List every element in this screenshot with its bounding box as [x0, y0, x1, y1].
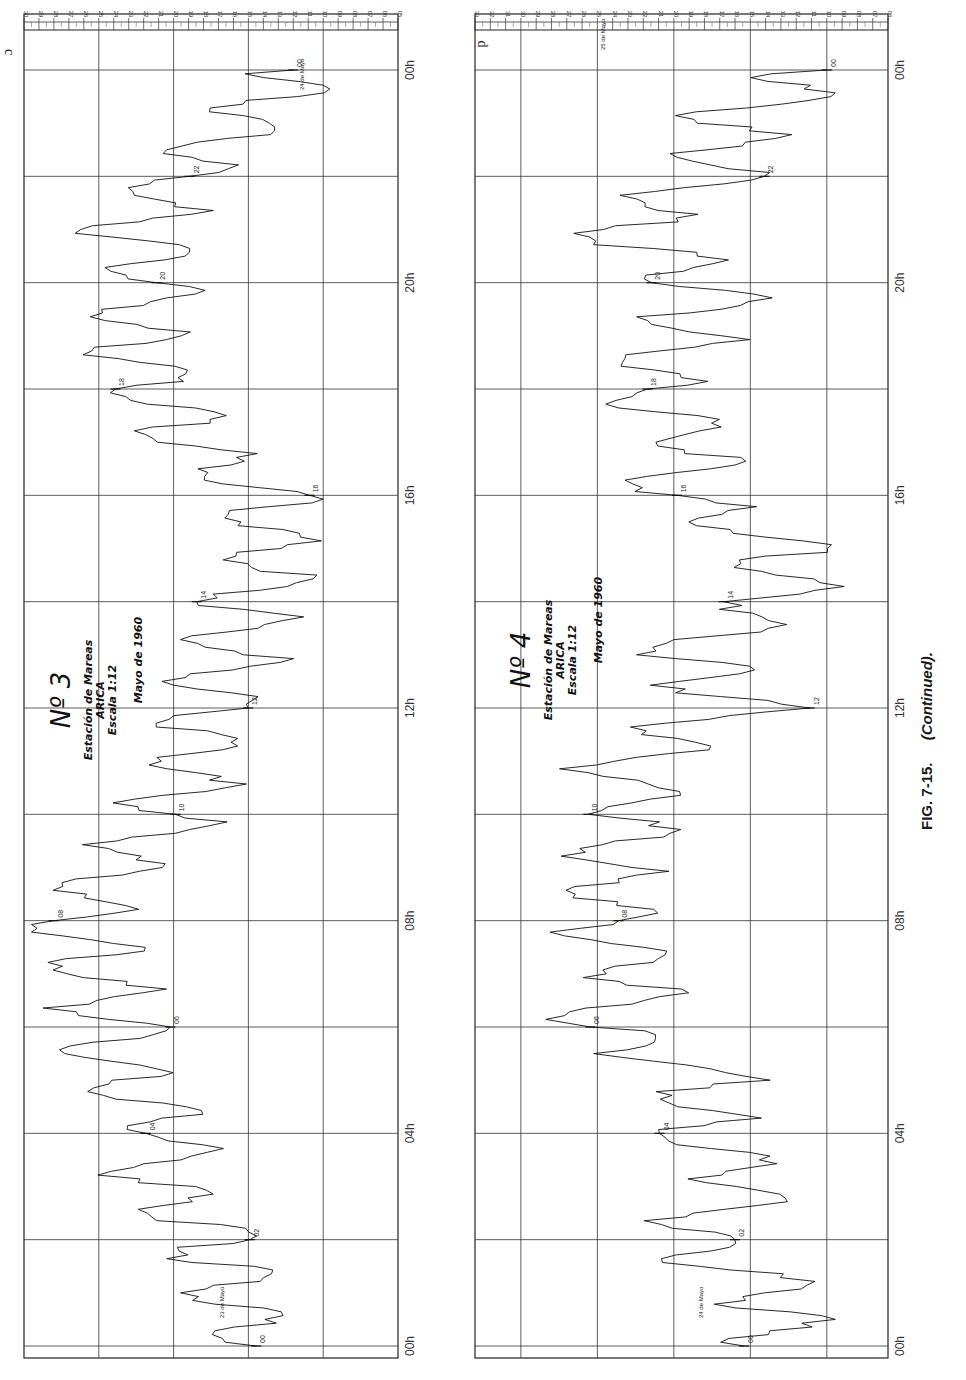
scale-tick-label: 16 [734, 11, 740, 18]
scale-tick-label: 22 [143, 11, 149, 18]
hour-axis-label: 04h [403, 1123, 417, 1143]
hour-axis-label: 00h [403, 1336, 417, 1356]
trace-hour-mark: 10 [178, 803, 185, 811]
marigram-charts: 3029282726252423222120191817161514131211… [0, 0, 966, 1380]
date-label: Mayo de 1960 [592, 576, 605, 663]
scale-tick-label: 24 [113, 11, 119, 18]
scale-tick-label: 14 [765, 11, 771, 18]
trace-hour-mark: 20 [159, 272, 166, 280]
trace-hour-mark: 06 [173, 1016, 180, 1024]
scale-tick-label: 26 [83, 11, 89, 18]
hour-axis-label: 08h [893, 911, 907, 931]
scale-tick-label: 31 [505, 11, 511, 18]
scale-tick-label: 28 [550, 11, 556, 18]
scale-tick-label: 25 [98, 11, 104, 18]
scale-tick-label: 17 [217, 11, 223, 18]
trace-hour-mark: 08 [57, 910, 64, 918]
hour-axis-label: 20h [893, 273, 907, 293]
trace-hour-mark: 00 [830, 59, 837, 67]
scale-tick-label: 08 [352, 11, 358, 18]
scale-tick-label: 21 [158, 11, 164, 18]
scale-tick-label: 07 [367, 11, 373, 18]
scale-tick-label: 13 [780, 11, 786, 18]
start-date-note: 24 de Mayo [698, 1286, 704, 1318]
trace-hour-mark: 12 [813, 697, 820, 705]
scale-tick-label: 30 [23, 11, 29, 18]
scale-tick-label: 05 [397, 11, 403, 18]
scale-tick-label: 19 [688, 11, 694, 18]
marigram-panel-d: 3332313029282726252423222120191817161514… [474, 11, 907, 1358]
trace-hour-mark: 02 [738, 1229, 745, 1237]
caption-label: FIG. 7-15. [918, 762, 935, 830]
scale-tick-label: 10 [322, 11, 328, 18]
scale-tick-label: 27 [566, 11, 572, 18]
hour-axis-label: 20h [403, 273, 417, 293]
scale-tick-label: 20 [673, 11, 679, 18]
hour-axis-label: 04h [893, 1123, 907, 1143]
scale-tick-label: 08 [856, 11, 862, 18]
hour-axis-label: 12h [403, 698, 417, 718]
trace-hour-mark: 14 [727, 591, 734, 599]
panel-number-label: Nº 4 [506, 632, 536, 689]
scale-tick-label: 20 [173, 11, 179, 18]
scale-tick-label: 25 [596, 11, 602, 18]
scale-tick-label: 06 [382, 11, 388, 18]
scale-tick-label: 18 [703, 11, 709, 18]
scale-tick-label: 06 [887, 11, 893, 18]
trace-hour-mark: 04 [663, 1122, 670, 1130]
trace-hour-mark: 12 [251, 697, 258, 705]
scale-tick-label: 11 [307, 11, 313, 18]
trace-hour-mark: 08 [621, 910, 628, 918]
trace-hour-mark: 14 [200, 591, 207, 599]
trace-hour-mark: 22 [193, 165, 200, 173]
scale-tick-label: 07 [872, 11, 878, 18]
start-date-note: 23 de Mayo [219, 1286, 225, 1318]
trace-hour-mark: 16 [312, 484, 319, 492]
scale-tick-label: 29 [535, 11, 541, 18]
scale-tick-label: 33 [474, 11, 480, 18]
caption-note: (Continued). [918, 652, 935, 740]
panel-number-label: Nº 3 [46, 672, 76, 729]
marigram-panel-c: 3029282726252423222120191817161514131211… [23, 11, 417, 1358]
figure-caption: FIG. 7-15. (Continued). [918, 430, 942, 830]
date-label: Mayo de 1960 [132, 616, 145, 703]
hour-axis-label: 00h [403, 60, 417, 80]
scale-tick-label: 11 [811, 11, 817, 18]
trace-hour-mark: 18 [118, 378, 125, 386]
end-date-note: 24 de Mayo [299, 58, 305, 90]
trace-hour-mark: 04 [149, 1122, 156, 1130]
trace-hour-mark: 06 [593, 1016, 600, 1024]
scale-tick-label: 26 [581, 11, 587, 18]
scale-tick-label: 23 [627, 11, 633, 18]
scale-tick-label: 27 [68, 11, 74, 18]
scale-tick-label: 12 [795, 11, 801, 18]
trace-hour-mark: 16 [680, 484, 687, 492]
scale-tick-label: 19 [188, 11, 194, 18]
scale-tick-label: 15 [749, 11, 755, 18]
trace-hour-mark: 02 [253, 1229, 260, 1237]
trace-hour-mark: 00 [259, 1335, 266, 1343]
scale-tick-label: 22 [642, 11, 648, 18]
scale-tick-label: 28 [53, 11, 59, 18]
hour-axis-label: 08h [403, 911, 417, 931]
scale-tick-label: 18 [203, 11, 209, 18]
trace-hour-mark: 20 [654, 272, 661, 280]
end-date-note: 25 de Mayo [600, 18, 606, 50]
hour-axis-label: 12h [893, 698, 907, 718]
scale-tick-label: 13 [277, 11, 283, 18]
scale-tick-label: 16 [232, 11, 238, 18]
scale-tick-label: 30 [520, 11, 526, 18]
trace-hour-mark: 10 [591, 803, 598, 811]
hour-axis-label: 16h [403, 485, 417, 505]
scale-tick-label: 23 [128, 11, 134, 18]
scale-tick-label: 14 [262, 11, 268, 18]
scale-tick-label: 17 [719, 11, 725, 18]
trace-hour-mark: 22 [767, 165, 774, 173]
trace-hour-mark: 18 [650, 378, 657, 386]
scale-tick-label: 24 [612, 11, 618, 18]
scale-tick-label: 09 [841, 11, 847, 18]
scale-tick-label: 10 [826, 11, 832, 18]
hour-axis-label: 00h [893, 60, 907, 80]
scale-label: Escala 1:12 [566, 624, 579, 695]
trace-hour-mark: 00 [747, 1335, 754, 1343]
